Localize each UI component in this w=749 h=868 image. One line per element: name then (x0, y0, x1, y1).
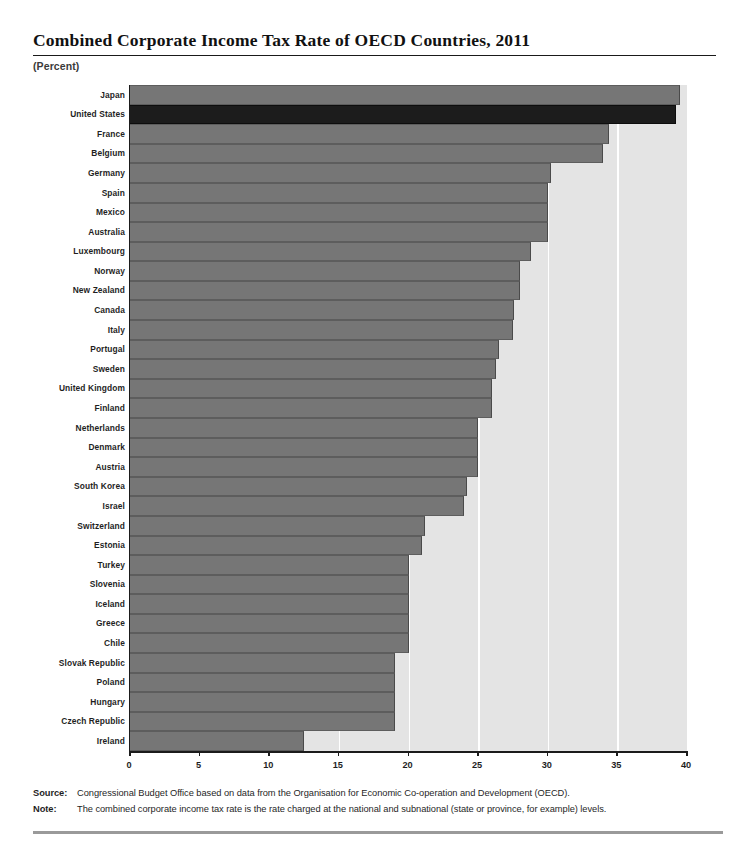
y-axis-label: Portugal (33, 345, 125, 353)
y-axis-label: Poland (33, 678, 125, 686)
x-axis-tick-label: 10 (263, 760, 273, 770)
bar-row (130, 633, 687, 653)
bar-row (130, 731, 687, 751)
x-axis-tick-label: 40 (681, 760, 691, 770)
bar-portugal (130, 340, 499, 360)
bar-ireland (130, 731, 304, 751)
y-axis-label: Austria (33, 463, 125, 471)
bar-czech-republic (130, 712, 395, 732)
bar-belgium (130, 144, 603, 164)
bar-iceland (130, 594, 409, 614)
bar-united-states (130, 105, 676, 125)
bar-row (130, 340, 687, 360)
bar-slovak-republic (130, 653, 395, 673)
bar-series (130, 85, 687, 751)
title-block: Combined Corporate Income Tax Rate of OE… (33, 30, 716, 72)
y-axis-label: Greece (33, 619, 125, 627)
bar-row (130, 457, 687, 477)
bar-poland (130, 673, 395, 693)
x-axis-tick (686, 751, 688, 756)
title-divider (33, 55, 716, 56)
bar-row (130, 575, 687, 595)
note-label: Note: (33, 804, 77, 814)
bar-row (130, 183, 687, 203)
bar-row (130, 144, 687, 164)
source-label: Source: (33, 788, 77, 798)
y-axis-label: Sweden (33, 365, 125, 373)
footnotes: Source: Congressional Budget Office base… (33, 788, 723, 820)
bar-slovenia (130, 575, 409, 595)
x-axis-tick-label: 5 (196, 760, 201, 770)
bar-row (130, 594, 687, 614)
y-axis-label: Israel (33, 502, 125, 510)
bar-row (130, 163, 687, 183)
y-axis-label: Denmark (33, 443, 125, 451)
bar-row (130, 359, 687, 379)
bar-row (130, 222, 687, 242)
y-axis-label: France (33, 130, 125, 138)
bar-row (130, 496, 687, 516)
x-axis-tick (477, 751, 479, 756)
y-axis-label: Finland (33, 404, 125, 412)
x-axis-tick-label: 0 (126, 760, 131, 770)
bar-greece (130, 614, 409, 634)
bar-israel (130, 496, 464, 516)
y-axis-label: Estonia (33, 541, 125, 549)
y-axis-label: Ireland (33, 737, 125, 745)
bar-row (130, 242, 687, 262)
y-axis-label: Czech Republic (33, 717, 125, 725)
bar-row (130, 85, 687, 105)
x-axis-tick (129, 751, 131, 756)
y-axis-label: Hungary (33, 698, 125, 706)
x-axis-tick (199, 751, 201, 756)
x-axis-tick-label: 30 (542, 760, 552, 770)
bar-germany (130, 163, 551, 183)
x-axis-tick-label: 35 (611, 760, 621, 770)
bar-new-zealand (130, 281, 520, 301)
x-axis-tick (268, 751, 270, 756)
bar-row (130, 320, 687, 340)
y-axis-label: United States (33, 110, 125, 118)
y-axis-label: Turkey (33, 561, 125, 569)
bar-norway (130, 261, 520, 281)
y-axis-label: Iceland (33, 600, 125, 608)
bar-south-korea (130, 477, 467, 497)
y-axis-label: Spain (33, 189, 125, 197)
x-axis-tick (547, 751, 549, 756)
y-axis-label: Japan (33, 91, 125, 99)
x-axis-tick-label: 25 (472, 760, 482, 770)
bar-row (130, 516, 687, 536)
x-axis-tick (338, 751, 340, 756)
bar-canada (130, 300, 514, 320)
bar-luxembourg (130, 242, 531, 262)
bar-row (130, 124, 687, 144)
bar-sweden (130, 359, 496, 379)
y-axis-label: Italy (33, 326, 125, 334)
bar-japan (130, 85, 680, 105)
bar-row (130, 614, 687, 634)
y-axis-label: Switzerland (33, 522, 125, 530)
bar-chile (130, 633, 409, 653)
bar-mexico (130, 203, 548, 223)
bar-row (130, 536, 687, 556)
bar-row (130, 281, 687, 301)
y-axis-label: Canada (33, 306, 125, 314)
bottom-divider (33, 831, 723, 834)
gridline (687, 85, 689, 751)
x-axis-tick-label: 20 (402, 760, 412, 770)
bar-austria (130, 457, 478, 477)
bar-italy (130, 320, 513, 340)
y-axis-label: Australia (33, 228, 125, 236)
y-axis-label: New Zealand (33, 286, 125, 294)
bar-row (130, 555, 687, 575)
note-line: Note: The combined corporate income tax … (33, 804, 723, 814)
bar-finland (130, 398, 492, 418)
note-text: The combined corporate income tax rate i… (77, 804, 723, 814)
page-title: Combined Corporate Income Tax Rate of OE… (33, 30, 716, 51)
bar-row (130, 261, 687, 281)
bar-estonia (130, 536, 422, 556)
bar-row (130, 379, 687, 399)
y-axis-label: South Korea (33, 482, 125, 490)
bar-turkey (130, 555, 409, 575)
bar-australia (130, 222, 548, 242)
